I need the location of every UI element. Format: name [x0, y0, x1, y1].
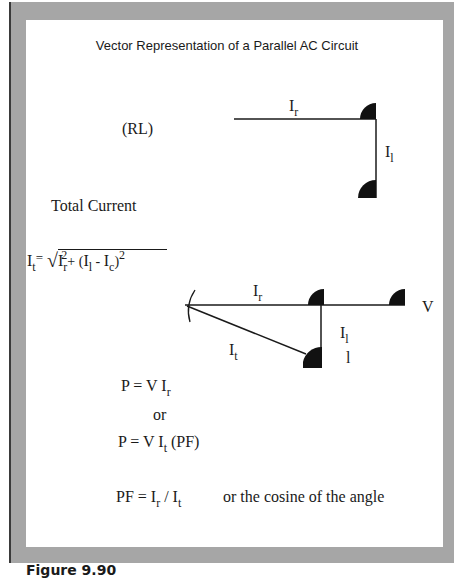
arrowhead-v: [389, 289, 405, 305]
phasor-il-label: Il: [340, 324, 349, 342]
voltage-label: V: [422, 298, 434, 316]
angle-arc: [188, 290, 195, 322]
il-label: Il: [385, 143, 394, 161]
arrowhead-ir: [360, 103, 376, 119]
radicand: Ir2+ (Il - Ic)2: [58, 249, 167, 269]
phasor-ir-label: Ir: [253, 282, 262, 300]
total-current-heading: Total Current: [51, 197, 137, 215]
arrowhead-il: [358, 180, 376, 198]
power-factor-eq: PF = Ir / It: [116, 488, 181, 506]
arrowhead-it: [303, 347, 322, 368]
total-current-formula: It= √Ir2+ (Il - Ic)2: [27, 248, 167, 271]
radical-sign: √: [47, 249, 58, 271]
phasor-il-extra: l: [346, 349, 350, 367]
power-eq-2: P = V It (PF): [118, 433, 199, 451]
rl-label: (RL): [122, 120, 153, 138]
rl-vector-diagram: [234, 103, 376, 198]
power-eq-1: P = V Ir: [121, 377, 171, 395]
arrowhead-ir: [308, 289, 324, 305]
power-factor-note: or the cosine of the angle: [223, 488, 384, 506]
phasor-diagram: [185, 289, 405, 368]
phasor-it-label: It: [229, 341, 238, 359]
figure-caption: Figure 9.90: [26, 562, 116, 578]
ir-label: Ir: [289, 97, 298, 115]
power-or: or: [153, 406, 166, 424]
